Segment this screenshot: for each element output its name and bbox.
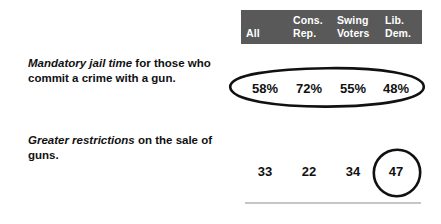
column-header-swing-voters: Swing Voters xyxy=(337,10,384,44)
question-label-row-2: Greater restrictions on the sale of guns… xyxy=(28,133,228,162)
column-header-swing-voters-line1: Swing xyxy=(337,10,384,27)
table-row-1-values: 58% 72% 55% 48% xyxy=(241,78,422,100)
value-row-1-lib-dem: 48% xyxy=(372,78,420,100)
column-header-all: All xyxy=(246,10,290,44)
value-row-1-all: 58% xyxy=(241,78,289,100)
column-header-swing-voters-line2: Voters xyxy=(337,27,384,40)
table-row-2-values: 33 22 34 47 xyxy=(241,161,422,183)
question-lead-row-1: Mandatory jail time xyxy=(28,57,132,69)
value-row-1-swing-voters: 55% xyxy=(330,78,376,100)
column-header-lib-dem: Lib. Dem. xyxy=(385,10,425,44)
value-row-2-swing-voters: 34 xyxy=(330,161,376,183)
value-row-1-cons-rep: 72% xyxy=(285,78,333,100)
column-header-cons-rep-line2: Rep. xyxy=(293,27,337,40)
question-label-row-1: Mandatory jail time for those who commit… xyxy=(28,56,228,85)
column-header-cons-rep-line1: Cons. xyxy=(293,10,337,27)
value-row-2-cons-rep: 22 xyxy=(285,161,333,183)
value-row-2-lib-dem: 47 xyxy=(372,161,420,183)
question-lead-row-2: Greater restrictions xyxy=(28,134,135,146)
value-row-2-all: 33 xyxy=(241,161,289,183)
column-header-all-line2: All xyxy=(246,27,290,40)
column-header-cons-rep: Cons. Rep. xyxy=(293,10,337,44)
column-header-all-line1 xyxy=(246,10,290,27)
table-header-bar: All Cons. Rep. Swing Voters Lib. Dem. xyxy=(241,10,422,44)
bottom-divider xyxy=(245,202,421,204)
column-header-lib-dem-line2: Dem. xyxy=(385,27,425,40)
column-header-lib-dem-line1: Lib. xyxy=(385,10,425,27)
